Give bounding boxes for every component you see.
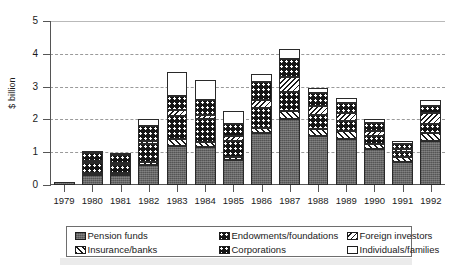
bar-stack <box>138 119 159 185</box>
bar-segment <box>279 49 300 59</box>
bar-segment <box>110 175 131 185</box>
legend-label-endowments: Endowments/foundations <box>232 230 339 241</box>
bar-series-container <box>50 21 445 185</box>
x-axis-tick <box>121 185 122 192</box>
bar-segment <box>336 121 357 131</box>
bar-segment <box>308 115 329 130</box>
bar-segment <box>420 124 441 132</box>
legend-swatch-insurance <box>75 246 86 254</box>
bar-segment <box>82 175 103 185</box>
bar-segment <box>138 126 159 141</box>
bar-segment <box>167 72 188 97</box>
chart-figure: $ billion 012345 19791980198119821983198… <box>0 0 460 279</box>
y-axis-tick-label: 4 <box>18 49 38 59</box>
x-axis-tick <box>233 185 234 192</box>
chart-legend: Pension fundsEndowments/foundationsForei… <box>66 226 412 257</box>
x-axis-tick <box>346 185 347 192</box>
bar-segment <box>110 155 131 163</box>
legend-swatch-foreign <box>347 232 358 240</box>
bar-segment <box>167 116 188 139</box>
bar-segment <box>167 146 188 185</box>
bar-segment <box>251 133 272 185</box>
bar-segment <box>251 82 272 100</box>
bar-stack <box>279 49 300 185</box>
bar-segment <box>223 124 244 135</box>
bar-segment <box>420 113 441 124</box>
bar-stack <box>195 80 216 185</box>
bar-segment <box>251 100 272 108</box>
bar-segment <box>336 103 357 113</box>
legend-item-endowments[interactable]: Endowments/foundations <box>219 228 338 243</box>
y-axis-label: $ billion <box>7 63 17 123</box>
bar-segment <box>336 139 357 185</box>
legend-item-insurance[interactable]: Insurance/banks <box>75 242 157 257</box>
bar-segment <box>82 163 103 173</box>
legend-label-insurance: Insurance/banks <box>88 244 158 255</box>
bar-segment <box>195 80 216 100</box>
bar-segment <box>336 131 357 139</box>
bar-segment <box>364 123 385 131</box>
bar-segment <box>364 149 385 185</box>
legend-swatch-pension <box>75 232 86 240</box>
bar-segment <box>279 92 300 112</box>
legend-item-foreign[interactable]: Foreign investors <box>347 228 432 243</box>
x-axis-tick <box>431 185 432 192</box>
x-axis-tick <box>318 185 319 192</box>
bar-segment <box>279 119 300 185</box>
bar-segment <box>138 165 159 185</box>
legend-swatch-endowments <box>219 232 230 240</box>
bar-segment <box>279 59 300 77</box>
x-axis-tick <box>205 185 206 192</box>
x-axis-tick-label: 1992 <box>411 195 451 206</box>
legend-row-1: Pension fundsEndowments/foundationsForei… <box>67 228 411 243</box>
bar-stack <box>420 100 441 185</box>
y-axis-tick-label: 3 <box>18 82 38 92</box>
y-axis-tick-label: 2 <box>18 114 38 124</box>
bar-segment <box>110 165 131 173</box>
bar-segment <box>308 136 329 185</box>
bar-segment <box>195 100 216 115</box>
bar-segment <box>167 96 188 109</box>
x-axis-tick <box>149 185 150 192</box>
bar-segment <box>251 108 272 128</box>
bar-segment <box>279 77 300 92</box>
bar-stack <box>392 141 413 185</box>
y-axis-tick <box>43 185 51 186</box>
y-axis-tick-label: 1 <box>18 147 38 157</box>
bar-segment <box>195 147 216 185</box>
x-axis-tick <box>374 185 375 192</box>
legend-item-pension[interactable]: Pension funds <box>75 228 148 243</box>
bar-segment <box>82 153 103 161</box>
bar-stack <box>110 153 131 185</box>
x-axis-tick <box>262 185 263 192</box>
bar-segment <box>420 133 441 141</box>
legend-item-corporations[interactable]: Corporations <box>219 242 286 257</box>
bar-segment <box>308 106 329 114</box>
legend-swatch-individuals <box>347 246 358 254</box>
legend-label-corporations: Corporations <box>232 244 286 255</box>
figure-shadow <box>60 258 412 265</box>
bar-segment <box>336 113 357 121</box>
legend-item-individuals[interactable]: Individuals/families <box>347 242 439 257</box>
bar-segment <box>392 162 413 185</box>
bar-segment <box>279 111 300 119</box>
x-axis-tick <box>64 185 65 192</box>
legend-label-pension: Pension funds <box>88 230 148 241</box>
bar-segment <box>364 136 385 144</box>
y-axis-tick-label: 5 <box>18 16 38 26</box>
bar-stack <box>82 151 103 185</box>
bar-segment <box>223 111 244 124</box>
bar-segment <box>308 93 329 106</box>
bar-stack <box>364 119 385 185</box>
legend-label-individuals: Individuals/families <box>360 244 440 255</box>
legend-row-2: Insurance/banksCorporationsIndividuals/f… <box>67 242 411 257</box>
bar-stack <box>251 74 272 185</box>
bar-segment <box>195 119 216 142</box>
x-axis-tick <box>290 185 291 192</box>
bar-segment <box>223 160 244 185</box>
x-axis-tick <box>403 185 404 192</box>
bar-stack <box>167 72 188 185</box>
bar-segment <box>223 141 244 157</box>
bar-stack <box>336 98 357 185</box>
bar-segment <box>138 144 159 162</box>
